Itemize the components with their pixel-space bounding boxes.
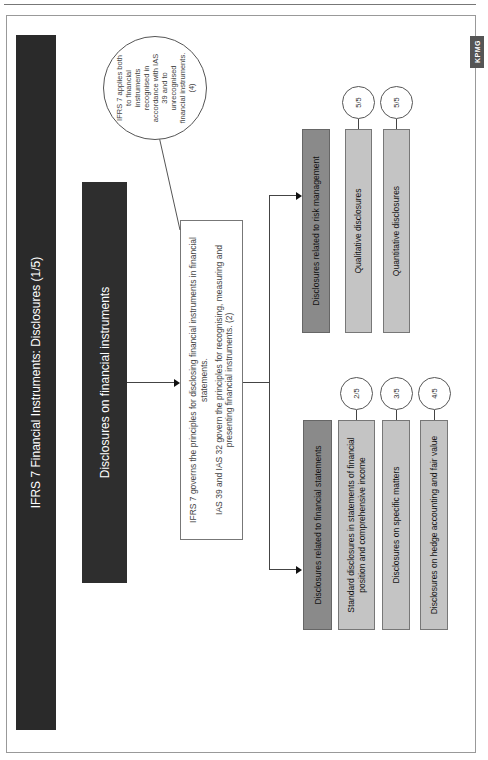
item-qualitative: Qualitative disclosures <box>345 129 372 333</box>
item-standard-disclosures: Standard disclosures in statements of fi… <box>338 420 375 630</box>
connector-line <box>356 410 357 420</box>
connector-line <box>396 119 397 129</box>
connector-line <box>269 195 297 196</box>
page-ref-circle: 5/5 <box>342 86 375 119</box>
page-ref-circle: 2/5 <box>340 377 373 410</box>
item-quantitative: Quantitative disclosures <box>383 129 410 333</box>
connector-line <box>269 195 270 570</box>
connector-line <box>396 410 397 420</box>
description-line-2: IAS 39 and IAS 32 govern the principles … <box>214 231 235 529</box>
connector-line <box>358 119 359 129</box>
branch-financial-statements: Disclosures related to financial stateme… <box>303 420 332 630</box>
page-ref-circle: 4/5 <box>418 377 451 410</box>
page-ref-circle: 5/5 <box>380 86 413 119</box>
main-topic-box: Disclosures on financial instruments <box>82 182 127 583</box>
description-box: IFRS 7 governs the principles for disclo… <box>180 220 243 540</box>
connector-line <box>127 382 174 383</box>
connector-line <box>269 569 297 570</box>
item-hedge-fair-value: Disclosures on hedge accounting and fair… <box>420 420 448 630</box>
page-ref-circle: 3/5 <box>380 377 413 410</box>
description-line-1: IFRS 7 governs the principles for disclo… <box>188 231 209 529</box>
diagram-title: IFRS 7 Financial Instruments: Disclosure… <box>16 35 56 730</box>
connector-line <box>434 410 435 420</box>
item-specific-matters: Disclosures on specific matters <box>382 420 410 630</box>
diagram-canvas: IFRS 7 Financial Instruments: Disclosure… <box>0 0 488 760</box>
callout-bubble: IFRS 7 applies both to financial instrum… <box>103 36 207 140</box>
connector-line <box>243 382 269 383</box>
arrow-head-icon <box>296 566 302 574</box>
branch-risk-management: Disclosures related to risk management <box>302 129 330 333</box>
